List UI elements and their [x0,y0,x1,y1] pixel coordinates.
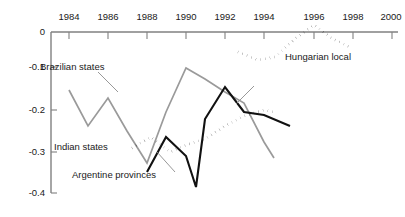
line-chart: 1984 1986 1988 1990 1992 1994 1996 1998 … [0,0,405,217]
x-tick-label-1998: 1998 [342,11,363,22]
chart-container: 1984 1986 1988 1990 1992 1994 1996 1998 … [0,0,405,217]
y-tick-label-0: 0 [40,26,45,37]
x-tick-label-1994: 1994 [253,11,274,22]
series-label-hungarian-local: Hungarian local [285,51,351,62]
y-tick-label-neg03: -0.3 [29,146,45,157]
leader-line-argentine [157,152,175,172]
x-tick-label-1986: 1986 [97,11,118,22]
x-tick-label-2000: 2000 [380,11,401,22]
x-tick-label-1992: 1992 [214,11,235,22]
series-annotations: Brazilian states Indian states Argentine… [40,51,351,180]
series-label-brazilian-states: Brazilian states [40,61,105,72]
series-label-argentine-provinces: Argentine provinces [72,169,156,180]
y-tick-label-neg04: -0.4 [29,187,45,198]
leader-line-brazilian [98,72,118,92]
x-tick-label-1984: 1984 [58,11,79,22]
series-line-argentine-provinces [147,87,290,187]
leader-line-hungarian [236,86,254,104]
y-tick-label-neg02: -0.2 [29,104,45,115]
x-tick-label-1990: 1990 [175,11,196,22]
x-tick-label-1988: 1988 [136,11,157,22]
x-tick-label-1996: 1996 [303,11,324,22]
x-tick-labels: 1984 1986 1988 1990 1992 1994 1996 1998 … [58,11,401,22]
series-label-indian-states: Indian states [54,141,108,152]
y-tick-labels: 0 -0.1 -0.2 -0.3 -0.4 [29,26,45,198]
